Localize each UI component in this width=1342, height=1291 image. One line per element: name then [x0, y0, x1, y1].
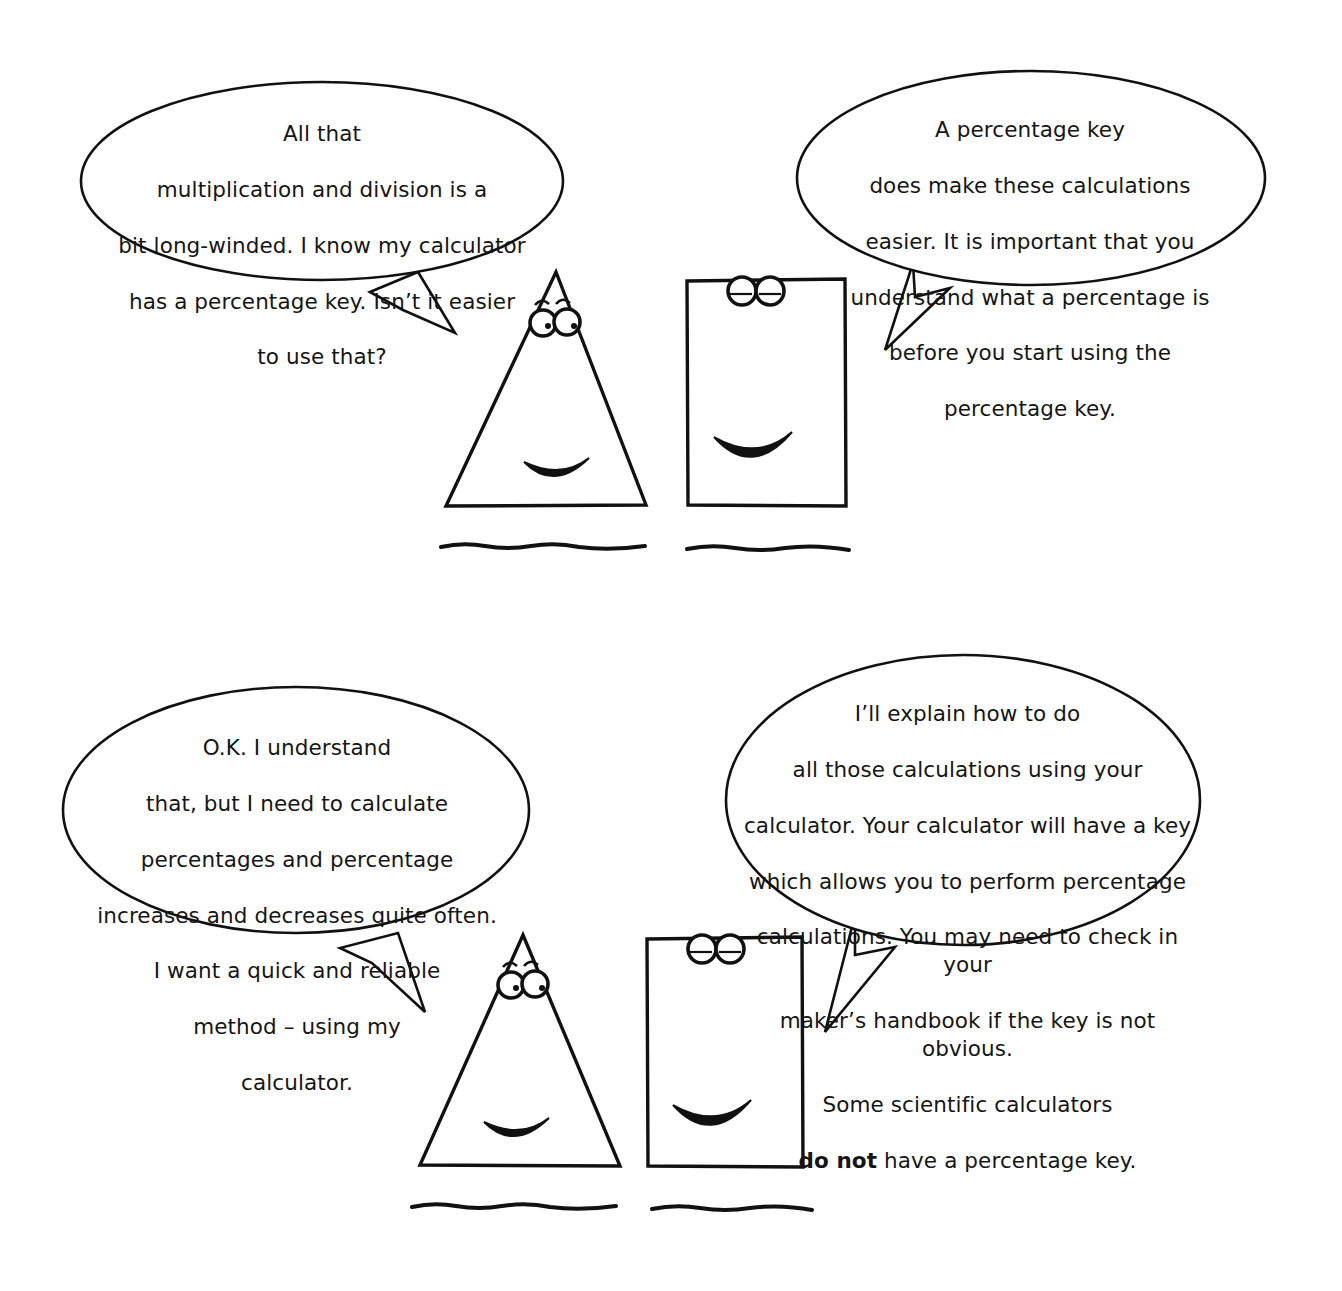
bubble-4-last-line: do not have a percentage key. [740, 1147, 1195, 1175]
speech-bubble-1-text: All that multiplication and division is … [92, 92, 552, 399]
speech-bubble-3-text: O.K. I understand that, but I need to ca… [72, 706, 522, 1125]
bubble-4-line: Some scientific calculators [740, 1091, 1195, 1119]
speech-bubble-2-text: A percentage key does make these calcula… [805, 88, 1255, 451]
bubble-1-line: to use that? [92, 343, 552, 371]
bubble-2-line: understand what a percentage is [805, 284, 1255, 312]
bubble-4-line: which allows you to perform percentage [740, 868, 1195, 896]
bubble-2-line: percentage key. [805, 395, 1255, 423]
bubble-4-line: maker’s handbook if the key is not obvio… [740, 1007, 1195, 1063]
bubble-3-line: increases and decreases quite often. [72, 902, 522, 930]
bubble-3-line: that, but I need to calculate [72, 790, 522, 818]
speech-bubble-4-text: I’ll explain how to do all those calcula… [740, 672, 1195, 1203]
bubble-4-rest: have a percentage key. [877, 1148, 1136, 1173]
bubble-4-line: calculator. Your calculator will have a … [740, 812, 1195, 840]
ground-line-icon-bottom-left [412, 1204, 616, 1209]
bubble-4-line: calculations. You may need to check in y… [740, 923, 1195, 979]
bubble-1-line: bit long-winded. I know my calculator [92, 232, 552, 260]
bubble-3-line: I want a quick and reliable [72, 957, 522, 985]
bubble-3-line: calculator. [72, 1069, 522, 1097]
bubble-3-line: method – using my [72, 1013, 522, 1041]
bubble-1-line: All that [92, 120, 552, 148]
bubble-2-line: easier. It is important that you [805, 228, 1255, 256]
ground-line-icon-top-left [441, 544, 645, 549]
ground-line-icon-bottom-right [652, 1206, 812, 1210]
bubble-4-emphasis: do not [799, 1148, 878, 1173]
bubble-2-line: before you start using the [805, 339, 1255, 367]
ground-line-icon-top-right [687, 546, 849, 550]
bubble-2-line: does make these calculations [805, 172, 1255, 200]
bubble-1-line: multiplication and division is a [92, 176, 552, 204]
bubble-3-line: O.K. I understand [72, 734, 522, 762]
bubble-2-line: A percentage key [805, 116, 1255, 144]
bubble-4-line: I’ll explain how to do [740, 700, 1195, 728]
bubble-3-line: percentages and percentage [72, 846, 522, 874]
bubble-4-line: all those calculations using your [740, 756, 1195, 784]
cartoon-scene: All that multiplication and division is … [0, 0, 1342, 1291]
bubble-1-line: has a percentage key. Isn’t it easier [92, 288, 552, 316]
